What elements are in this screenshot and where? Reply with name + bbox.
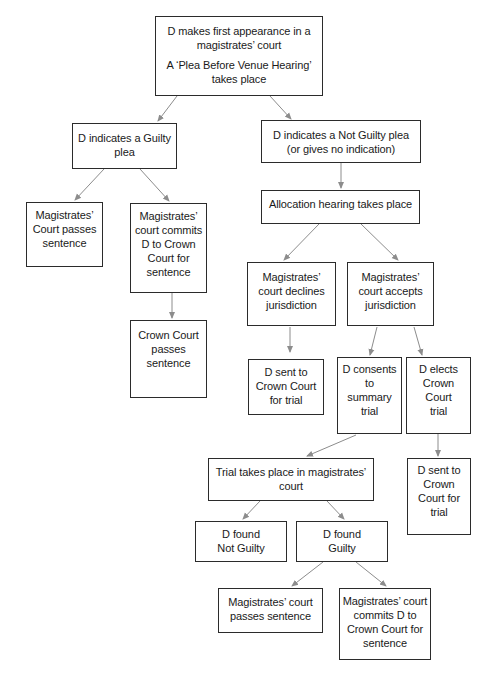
node-text: Magistrates’ xyxy=(131,209,206,223)
node-mc-passes-sentence-bottom: Magistrates’ court passes sentence xyxy=(218,588,323,633)
node-consents-summary-trial: D consents to summary trial xyxy=(337,357,402,434)
node-text: Magistrates’ court xyxy=(219,595,322,609)
node-text: Not Guilty xyxy=(196,541,286,555)
node-text: takes place xyxy=(156,72,322,86)
node-text: sentence xyxy=(131,356,206,370)
node-text: Court xyxy=(407,390,470,404)
node-text: Magistrates’ xyxy=(348,270,433,284)
node-trial-magistrates-court: Trial takes place in magistrates’ court xyxy=(208,458,374,501)
node-guilty-plea: D indicates a Guilty plea xyxy=(72,123,177,169)
arrow-allocation-to-declines xyxy=(284,224,319,260)
node-text: (or gives no indication) xyxy=(262,142,420,156)
node-text: Magistrates’ xyxy=(248,270,335,284)
node-text: D found xyxy=(196,527,286,541)
node-text: trial xyxy=(338,404,401,418)
arrow-guilty-to-mccommitsbottom xyxy=(356,562,386,586)
node-text: A ‘Plea Before Venue Hearing’ xyxy=(156,58,322,72)
node-text: Crown xyxy=(407,376,470,390)
node-text: Court for xyxy=(408,491,470,505)
node-sent-crown-trial-2: D sent to Crown Court for trial xyxy=(407,458,471,535)
arrow-consents-to-trial xyxy=(307,435,356,456)
node-text: D elects xyxy=(407,362,470,376)
node-text: trial xyxy=(407,404,470,418)
node-text: D consents xyxy=(338,362,401,376)
node-text: jurisdiction xyxy=(348,298,433,312)
node-mc-accepts-jurisdiction: Magistrates’ court accepts jurisdiction xyxy=(347,262,434,326)
arrow-allocation-to-accepts xyxy=(361,224,398,260)
node-allocation-hearing: Allocation hearing takes place xyxy=(261,190,420,224)
node-text: to xyxy=(338,376,401,390)
node-text: court commits xyxy=(131,223,206,237)
node-text: plea xyxy=(73,145,176,159)
node-text: D makes first appearance in a xyxy=(156,24,322,38)
arrow-trial-to-guilty xyxy=(327,501,344,519)
node-text: Crown Court xyxy=(249,379,323,393)
arrow-first-to-notguilty xyxy=(270,96,291,119)
node-text: jurisdiction xyxy=(248,298,335,312)
node-text: Crown xyxy=(408,477,470,491)
node-mc-commits-left: Magistrates’ court commits D to Crown Co… xyxy=(130,203,207,293)
node-crown-passes-sentence: Crown Court passes sentence xyxy=(130,320,207,398)
node-text: Guilty xyxy=(297,541,387,555)
node-text: court accepts xyxy=(348,284,433,298)
node-text: sentence xyxy=(27,236,102,250)
node-text: for trial xyxy=(249,393,323,407)
node-text: summary xyxy=(338,390,401,404)
node-mc-commits-bottom: Magistrates’ court commits D to Crown Co… xyxy=(339,588,431,660)
node-mc-declines-jurisdiction: Magistrates’ court declines jurisdiction xyxy=(247,262,336,326)
node-mc-passes-sentence-left: Magistrates’ Court passes sentence xyxy=(26,202,103,267)
arrow-trial-to-notguilty xyxy=(243,501,260,519)
node-text: commits D to xyxy=(340,608,430,622)
node-elects-crown-trial: D elects Crown Court trial xyxy=(406,357,471,434)
node-text: trial xyxy=(408,505,470,519)
node-text: sentence xyxy=(340,636,430,650)
node-text: D found xyxy=(297,527,387,541)
node-text: Magistrates’ xyxy=(27,208,102,222)
node-text: sentence xyxy=(131,265,206,279)
node-text: D sent to xyxy=(249,365,323,379)
node-text: magistrates’ court xyxy=(156,38,322,52)
node-text: court declines xyxy=(248,284,335,298)
arrow-guilty-to-mcpassesbottom xyxy=(292,562,323,586)
node-text: court xyxy=(209,479,373,493)
node-text: D indicates a Guilty xyxy=(73,131,176,145)
node-text: passes xyxy=(131,342,206,356)
node-text: Trial takes place in magistrates’ xyxy=(209,465,373,479)
flowchart-arrows xyxy=(0,0,491,675)
flowchart-canvas: D makes first appearance in a magistrate… xyxy=(0,0,491,675)
arrow-guilty-to-mccommits xyxy=(140,169,169,201)
arrow-first-to-guilty xyxy=(158,96,177,121)
node-text: D to Crown xyxy=(131,237,206,251)
node-text: D indicates a Not Guilty plea xyxy=(262,128,420,142)
node-first-appearance: D makes first appearance in a magistrate… xyxy=(155,16,323,96)
arrow-accepts-to-elects xyxy=(414,327,422,355)
node-text: Crown Court xyxy=(131,328,206,342)
node-text: Court for xyxy=(131,251,206,265)
node-text: passes sentence xyxy=(219,609,322,623)
node-text: D sent to xyxy=(408,463,470,477)
node-found-guilty: D found Guilty xyxy=(296,521,388,562)
node-text: Allocation hearing takes place xyxy=(262,197,419,211)
node-sent-crown-trial-1: D sent to Crown Court for trial xyxy=(248,359,324,415)
arrow-guilty-to-mcpasses xyxy=(75,169,104,200)
node-found-not-guilty: D found Not Guilty xyxy=(195,521,287,562)
arrow-accepts-to-consents xyxy=(370,327,377,355)
node-not-guilty-plea: D indicates a Not Guilty plea (or gives … xyxy=(261,120,421,163)
node-text: Magistrates’ court xyxy=(340,594,430,608)
node-text: Court passes xyxy=(27,222,102,236)
node-text: Crown Court for xyxy=(340,622,430,636)
